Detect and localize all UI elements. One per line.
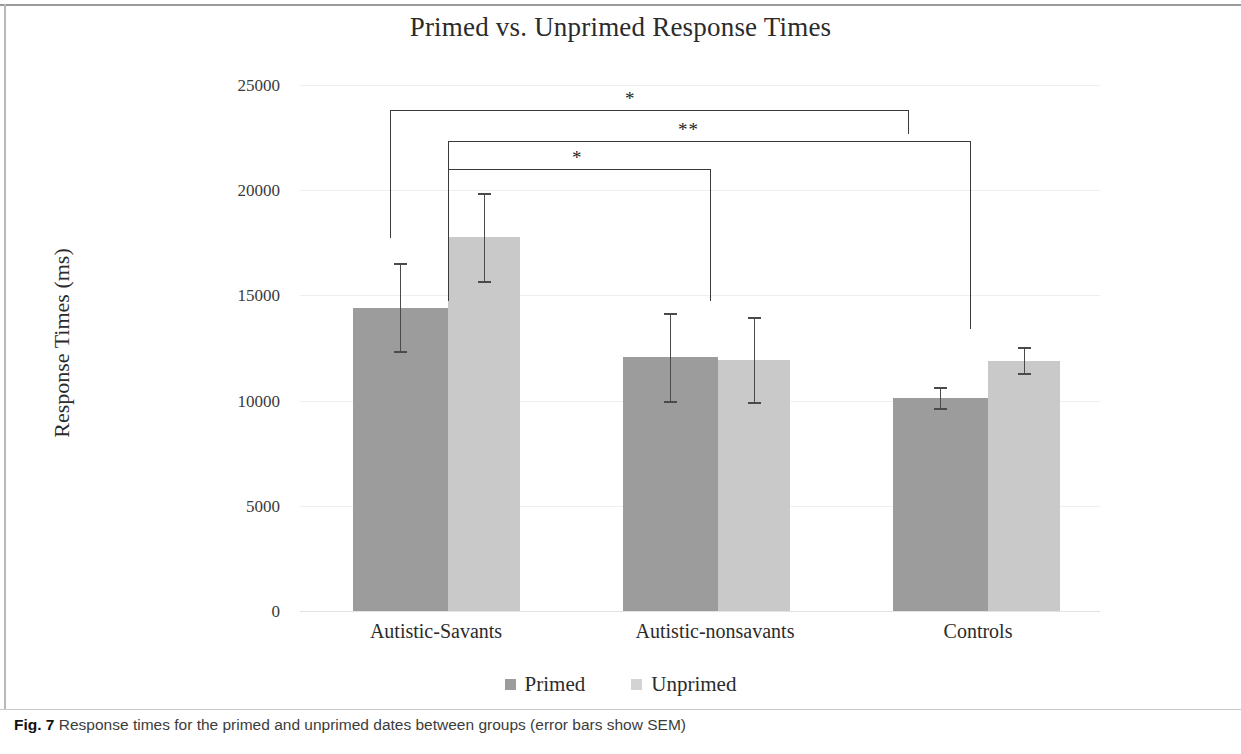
y-tick-label-25000: 25000 [190,76,280,96]
figure-caption-label: Fig. 7 [14,716,54,733]
chart-legend: Primed Unprimed [0,672,1241,697]
y-tick-label-10000: 10000 [190,392,280,412]
significance-bracket-3-left-leg [448,169,449,301]
gridline-15000 [300,295,1100,296]
significance-bracket-1-top [390,110,909,111]
gridline-25000 [300,85,1100,86]
errorbar-cap-top-controls-primed [934,387,947,389]
errorbar-controls-unprimed [1024,347,1025,374]
y-axis-title: Response Times (ms) [49,193,75,493]
errorbar-controls-primed [940,387,941,409]
significance-star-3: * [572,147,583,169]
significance-bracket-3-right-leg [710,169,711,301]
errorbar-cap-bottom-controls-unprimed [1018,373,1031,375]
plot-area: Response Times (ms) 25000 20000 15000 10… [0,0,1241,754]
legend-item-primed: Primed [505,672,586,697]
errorbar-autistic-nonsavants-unprimed [754,317,755,403]
bar-controls-unprimed [988,361,1060,611]
legend-label-unprimed: Unprimed [651,672,736,697]
errorbar-autistic-savants-unprimed [484,193,485,282]
significance-star-2: ** [678,119,699,141]
figure-caption-text: Response times for the primed and unprim… [59,716,686,733]
x-tick-label-autistic-savants: Autistic-Savants [316,620,556,643]
legend-swatch-primed-icon [505,679,516,690]
errorbar-cap-bottom-autistic-nonsavants-primed [664,401,677,403]
x-axis-baseline [300,611,1100,612]
figure-root: Primed vs. Unprimed Response Times Respo… [0,0,1241,754]
errorbar-cap-top-autistic-nonsavants-primed [664,313,677,315]
x-tick-label-autistic-nonsavants: Autistic-nonsavants [581,620,849,643]
y-tick-label-15000: 15000 [190,286,280,306]
errorbar-cap-top-autistic-savants-primed [394,263,407,265]
significance-bracket-1-left-leg [390,110,391,238]
legend-item-unprimed: Unprimed [631,672,736,697]
legend-swatch-unprimed-icon [631,679,642,690]
legend-label-primed: Primed [525,672,586,697]
y-tick-label-5000: 5000 [190,497,280,517]
significance-star-1: * [625,88,636,110]
y-tick-label-20000: 20000 [190,181,280,201]
errorbar-cap-top-autistic-savants-unprimed [478,193,491,195]
figure-caption: Fig. 7 Response times for the primed and… [14,716,1224,734]
significance-bracket-3-top [448,169,710,170]
significance-bracket-2-right-leg [970,141,971,329]
errorbar-autistic-savants-primed [400,263,401,352]
caption-divider [0,709,1241,710]
x-tick-label-controls: Controls [866,620,1090,643]
bar-autistic-savants-primed [353,308,448,611]
y-tick-label-0: 0 [190,602,280,622]
gridline-20000 [300,190,1100,191]
significance-bracket-1-right-leg [908,110,909,134]
errorbar-cap-bottom-controls-primed [934,408,947,410]
errorbar-cap-top-autistic-nonsavants-unprimed [748,317,761,319]
errorbar-autistic-nonsavants-primed [670,313,671,402]
bar-autistic-savants-unprimed [448,237,520,611]
errorbar-cap-bottom-autistic-savants-primed [394,351,407,353]
errorbar-cap-top-controls-unprimed [1018,347,1031,349]
bar-controls-primed [893,398,988,611]
significance-bracket-2-top [448,141,971,142]
errorbar-cap-bottom-autistic-nonsavants-unprimed [748,402,761,404]
errorbar-cap-bottom-autistic-savants-unprimed [478,281,491,283]
